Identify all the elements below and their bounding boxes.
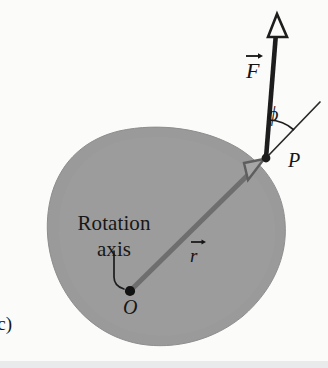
torque-diagram-svg — [0, 0, 328, 368]
origin-point-label: O — [123, 297, 137, 317]
position-vector-label-glyph: r — [190, 246, 197, 265]
position-vector-arrow-accent-icon — [190, 237, 207, 244]
force-vector-arrowhead — [268, 14, 287, 37]
page-bottom-rule — [0, 361, 328, 368]
figure-part-label: (c) — [0, 314, 12, 333]
rotation-axis-caption: Rotation axis — [56, 213, 172, 260]
application-point-label: P — [288, 150, 300, 170]
force-vector-arrow-accent-icon — [245, 51, 264, 58]
force-vector-shaft — [266, 33, 276, 158]
force-vector-label-group: F — [246, 60, 259, 82]
rotation-axis-caption-line-2: axis — [56, 239, 172, 260]
force-vector-label-glyph: F — [246, 60, 259, 82]
angle-phi-label: ϕ — [268, 104, 278, 124]
position-vector-label-group: r — [190, 246, 197, 265]
origin-point-marker — [125, 286, 135, 296]
rotation-axis-caption-line-1: Rotation — [56, 213, 172, 234]
application-point-marker — [262, 154, 271, 163]
figure-container: Rotation axis O P F r ϕ (c) — [0, 0, 328, 368]
